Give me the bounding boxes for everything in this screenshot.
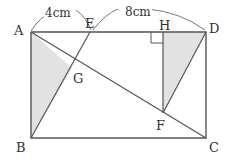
vertex-label-c: C bbox=[209, 141, 219, 154]
vertex-label-e: E bbox=[85, 17, 95, 30]
dimension-arc-ed-left bbox=[93, 9, 118, 30]
vertex-label-g: G bbox=[73, 72, 83, 85]
dimension-arc-ed-right bbox=[148, 9, 205, 30]
vertex-label-a: A bbox=[14, 24, 23, 37]
dimension-label-ae: 4cm bbox=[44, 7, 72, 19]
right-angle-mark-icon bbox=[151, 32, 163, 43]
geometry-figure: A B C D E F G H 4cm 8cm bbox=[0, 0, 231, 166]
vertex-label-h: H bbox=[159, 19, 170, 32]
vertex-label-d: D bbox=[209, 22, 219, 35]
vertex-label-b: B bbox=[16, 141, 26, 154]
vertex-label-f: F bbox=[156, 119, 165, 132]
dimension-label-ed: 8cm bbox=[124, 6, 152, 18]
figure-canvas bbox=[0, 0, 231, 166]
shaded-triangle-abg bbox=[31, 32, 72, 138]
